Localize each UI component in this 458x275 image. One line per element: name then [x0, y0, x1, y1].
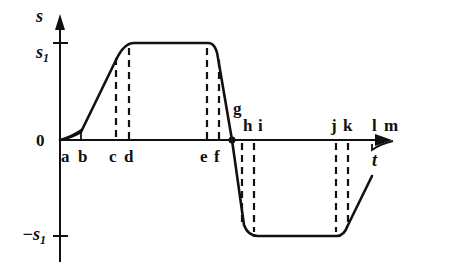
zero-crossing-point [229, 137, 236, 144]
label-j: j [330, 116, 337, 135]
zero-label: 0 [36, 131, 45, 150]
upper-dashed-guides [116, 48, 219, 140]
y-axis: s s1 0 −s1 [22, 6, 68, 262]
lower-dashed-guides [242, 143, 348, 232]
point-labels-below: a b c d e f [61, 147, 220, 166]
label-k: k [343, 116, 353, 135]
label-h: h [243, 116, 253, 135]
label-g: g [233, 99, 242, 118]
y-axis-arrow-icon [55, 14, 65, 30]
y-axis-label: s [35, 6, 43, 26]
s1-label: s1 [35, 42, 49, 65]
label-d: d [124, 147, 134, 166]
label-b: b [78, 147, 87, 166]
label-l: l [372, 116, 377, 135]
label-a: a [61, 147, 70, 166]
point-labels-above: g h i j k l m [233, 99, 398, 135]
label-f: f [214, 147, 220, 166]
label-m: m [384, 116, 398, 135]
label-e: e [200, 147, 208, 166]
x-axis-label: t [372, 150, 378, 170]
label-c: c [109, 147, 117, 166]
label-i: i [258, 116, 263, 135]
neg-s1-label: −s1 [22, 224, 46, 247]
diagram-canvas: s s1 0 −s1 t a b c d e f [0, 0, 458, 275]
